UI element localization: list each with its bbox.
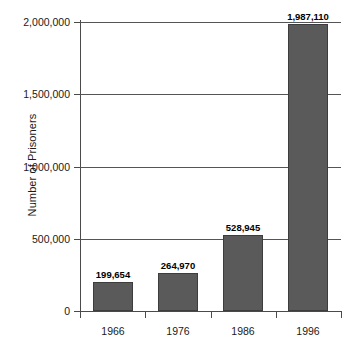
bar-value-label: 264,970	[135, 260, 221, 271]
y-tick-label: 0	[4, 306, 70, 316]
bar-value-label: 528,945	[200, 222, 286, 233]
x-tick-label: 1996	[278, 325, 338, 337]
bar	[158, 273, 198, 311]
x-tick-mark	[341, 312, 342, 318]
x-tick-label: 1976	[148, 325, 208, 337]
x-tick-label: 1966	[83, 325, 143, 337]
bar	[223, 235, 263, 311]
bar	[288, 24, 328, 311]
y-tick-label: 2,000,000	[4, 17, 70, 27]
x-tick-mark	[211, 312, 212, 318]
bar-value-label: 1,987,110	[265, 11, 351, 22]
x-tick-mark	[80, 312, 81, 318]
y-tick-label: 1,000,000	[4, 162, 70, 172]
bar-chart: Number of Prisoners 0500,0001,000,0001,5…	[0, 0, 358, 352]
bar	[93, 282, 133, 311]
x-tick-label: 1986	[213, 325, 273, 337]
y-tick-label: 500,000	[4, 234, 70, 244]
y-tick-label: 1,500,000	[4, 89, 70, 99]
x-tick-mark	[145, 312, 146, 318]
x-tick-mark	[276, 312, 277, 318]
